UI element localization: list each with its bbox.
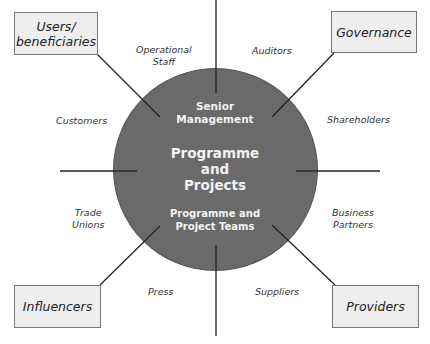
press-text: Press: [148, 286, 173, 297]
main-line-1: Programme: [0, 145, 430, 161]
users-line-2: beneficiaries: [16, 34, 96, 49]
influencers-box: Influencers: [14, 285, 101, 328]
auditors-label: Auditors: [252, 45, 292, 57]
influencers-label: Influencers: [23, 299, 92, 314]
trade-line-2: Unions: [72, 219, 104, 231]
main-line-3: Projects: [0, 177, 430, 193]
governance-box: Governance: [331, 11, 417, 53]
trade-line-1: Trade: [72, 207, 104, 219]
users-line-1: Users/: [16, 19, 96, 34]
auditors-text: Auditors: [252, 45, 292, 56]
operational-line-2: Staff: [136, 56, 192, 68]
customers-text: Customers: [56, 115, 107, 126]
operational-line-1: Operational: [136, 44, 192, 56]
trade-unions-label: Trade Unions: [72, 207, 104, 231]
providers-box: Providers: [332, 285, 419, 328]
business-partners-label: Business Partners: [332, 207, 374, 231]
programme-projects-title: Programme and Projects: [0, 145, 430, 193]
operational-staff-label: Operational Staff: [136, 44, 192, 68]
users-beneficiaries-box: Users/ beneficiaries: [14, 12, 98, 55]
shareholders-label: Shareholders: [327, 114, 390, 126]
shareholders-text: Shareholders: [327, 114, 390, 125]
customers-label: Customers: [56, 115, 107, 127]
suppliers-text: Suppliers: [255, 286, 299, 297]
senior-line-1: Senior: [0, 100, 430, 113]
business-line-2: Partners: [332, 219, 374, 231]
press-label: Press: [148, 286, 173, 298]
governance-label: Governance: [336, 25, 412, 40]
providers-label: Providers: [346, 299, 404, 314]
business-line-1: Business: [332, 207, 374, 219]
main-line-2: and: [0, 161, 430, 177]
suppliers-label: Suppliers: [255, 286, 299, 298]
